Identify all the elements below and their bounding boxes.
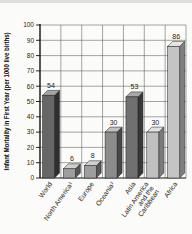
bar-side-face (55, 90, 60, 178)
bar-value-label: 6 (70, 155, 74, 162)
category-label: Africa (163, 180, 179, 198)
y-tick-label: 50 (27, 98, 35, 105)
bar-side-face (117, 127, 122, 178)
infant-mortality-bar-chart: 0102030405060708090100546830533086WorldN… (0, 0, 192, 234)
y-tick-label: 30 (27, 128, 35, 135)
bar-front-face (147, 132, 159, 178)
bar-front-face (168, 46, 180, 178)
bar-value-label: 30 (110, 119, 118, 126)
bar-front-face (126, 97, 138, 178)
y-tick-label: 90 (27, 37, 35, 44)
bar-value-label: 8 (91, 152, 95, 159)
y-tick-label: 0 (30, 174, 34, 181)
bar-value-label: 53 (131, 83, 139, 90)
bar-front-face (105, 132, 117, 178)
category-label: Europe (77, 180, 96, 203)
bar-value-label: 54 (47, 82, 55, 89)
category-label-line: Europe (77, 180, 96, 203)
y-tick-label: 40 (27, 113, 35, 120)
bar-front-face (84, 166, 96, 178)
y-tick-label: 80 (27, 52, 35, 59)
bar-side-face (138, 92, 143, 178)
y-tick-label: 70 (27, 67, 35, 74)
y-tick-label: 20 (27, 144, 35, 151)
y-axis-title: Infant Mortality in First Year (per 1000… (3, 33, 11, 171)
bar-side-face (180, 41, 185, 178)
category-label-line: Oceania² (94, 180, 116, 207)
bar-front-face (43, 95, 55, 178)
y-tick-label: 100 (23, 21, 34, 28)
category-label-line: Africa (163, 180, 179, 198)
bar-value-label: 86 (172, 33, 180, 40)
y-tick-label: 10 (27, 159, 35, 166)
category-label: Oceania² (94, 180, 116, 207)
bar-front-face (63, 169, 75, 178)
textbook-figure: 0102030405060708090100546830533086WorldN… (0, 0, 192, 234)
category-label-line: World (37, 180, 53, 199)
category-label: World (37, 180, 53, 199)
bar-side-face (159, 127, 164, 178)
y-tick-label: 60 (27, 83, 35, 90)
bar-value-label: 30 (151, 119, 159, 126)
